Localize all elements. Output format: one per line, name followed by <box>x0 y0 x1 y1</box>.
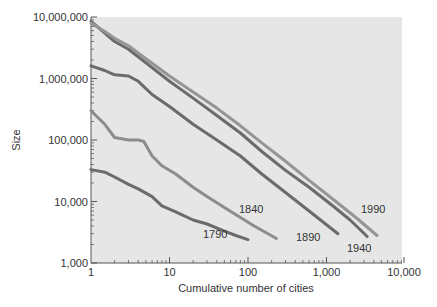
chart: 1,00010,000100,0001,000,00010,000,000 11… <box>0 0 437 307</box>
x-axis-tick-labels: 1101001,00010,000 <box>88 266 421 278</box>
y-tick-label: 10,000 <box>54 196 88 208</box>
series-label-1840: 1840 <box>239 203 263 215</box>
y-tick-label: 1,000 <box>60 257 88 269</box>
y-axis-tick-labels: 1,00010,000100,0001,000,00010,000,000 <box>33 11 88 269</box>
x-tick-label: 10 <box>163 266 175 278</box>
x-axis-title: Cumulative number of cities <box>178 282 314 294</box>
series-label-1990: 1990 <box>361 203 385 215</box>
y-tick-label: 1,000,000 <box>39 73 88 85</box>
series-label-1790: 1790 <box>203 228 227 240</box>
series-label-1940: 1940 <box>347 242 371 254</box>
series-label-1890: 1890 <box>296 231 320 243</box>
y-axis-title: Size <box>10 129 22 150</box>
y-tick-label: 10,000,000 <box>33 11 88 23</box>
x-tick-label: 1 <box>88 266 94 278</box>
y-tick-label: 100,000 <box>48 134 88 146</box>
x-tick-label: 100 <box>239 266 257 278</box>
x-tick-label: 1,000 <box>313 266 341 278</box>
x-tick-label: 10,000 <box>387 266 421 278</box>
